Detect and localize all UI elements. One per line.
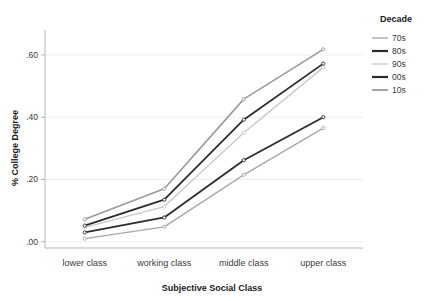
data-point-marker bbox=[163, 198, 166, 201]
data-point-marker bbox=[163, 205, 166, 208]
data-point-marker bbox=[163, 225, 166, 228]
data-point-marker bbox=[242, 98, 245, 101]
data-point-marker bbox=[163, 216, 166, 219]
data-point-marker bbox=[83, 237, 86, 240]
data-point-marker bbox=[242, 131, 245, 134]
y-axis-title: % College Degree bbox=[10, 110, 20, 186]
legend-label-00s: 00s bbox=[392, 72, 406, 82]
line-chart: .00.20.40.60 lower classworking classmid… bbox=[0, 0, 425, 301]
y-tick-label: .60 bbox=[26, 50, 38, 60]
y-tick-label: .00 bbox=[26, 237, 38, 247]
legend-label-10s: 10s bbox=[392, 85, 406, 95]
data-point-marker bbox=[242, 173, 245, 176]
x-category-label: upper class bbox=[300, 258, 347, 268]
x-category-label: lower class bbox=[62, 258, 107, 268]
legend-title: Decade bbox=[380, 14, 412, 24]
data-point-marker bbox=[242, 118, 245, 121]
y-tick-label: .40 bbox=[26, 112, 38, 122]
data-point-marker bbox=[242, 159, 245, 162]
data-point-marker bbox=[83, 231, 86, 234]
x-axis-title: Subjective Social Class bbox=[162, 283, 263, 293]
y-tick-label: .20 bbox=[26, 174, 38, 184]
x-category-label: middle class bbox=[219, 258, 269, 268]
data-point-marker bbox=[322, 66, 325, 69]
legend-label-80s: 80s bbox=[392, 46, 406, 56]
data-point-marker bbox=[163, 187, 166, 190]
data-point-marker bbox=[83, 224, 86, 227]
data-point-marker bbox=[83, 218, 86, 221]
legend-label-70s: 70s bbox=[392, 33, 406, 43]
data-point-marker bbox=[322, 116, 325, 119]
data-point-marker bbox=[322, 127, 325, 130]
x-category-label: working class bbox=[136, 258, 192, 268]
legend-label-90s: 90s bbox=[392, 59, 406, 69]
data-point-marker bbox=[322, 62, 325, 65]
chart-container: .00.20.40.60 lower classworking classmid… bbox=[0, 0, 425, 301]
data-point-marker bbox=[322, 48, 325, 51]
